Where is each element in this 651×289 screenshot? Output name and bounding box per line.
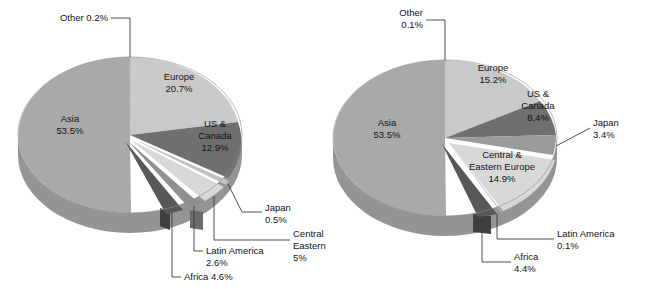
svg-text:20.7%: 20.7%: [166, 83, 193, 94]
svg-text:Eastern Europe: Eastern Europe: [469, 161, 535, 172]
svg-text:Canada: Canada: [198, 130, 232, 141]
right-callout-japan: Japan 3.4%: [556, 117, 619, 146]
svg-text:Europe: Europe: [478, 62, 509, 73]
right-pie-svg: Asia 53.5% Europe 15.2% US & Canada 8.4%…: [325, 0, 651, 289]
left-pie-chart-panel: Asia 53.5% Europe 20.7% US & Canada 12.9…: [0, 0, 326, 289]
svg-text:0.1%: 0.1%: [401, 19, 423, 30]
svg-text:2.6%: 2.6%: [206, 257, 228, 268]
svg-text:0.5%: 0.5%: [265, 214, 287, 225]
svg-text:4.4%: 4.4%: [514, 263, 536, 274]
svg-text:US &: US &: [527, 88, 550, 99]
svg-text:Other: Other: [399, 7, 423, 18]
svg-text:12.9%: 12.9%: [202, 142, 229, 153]
svg-text:Central &: Central &: [482, 149, 522, 160]
svg-text:53.5%: 53.5%: [57, 125, 84, 136]
svg-text:Latin America: Latin America: [557, 228, 615, 239]
svg-text:US &: US &: [204, 118, 227, 129]
svg-text:15.2%: 15.2%: [480, 74, 507, 85]
right-callout-other: Other 0.1%: [399, 7, 445, 60]
svg-text:14.9%: 14.9%: [489, 173, 516, 184]
svg-text:Africa 4.6%: Africa 4.6%: [184, 271, 233, 282]
svg-text:Asia: Asia: [378, 117, 397, 128]
right-callout-latin-america: Latin America 0.1%: [497, 214, 615, 251]
right-pie-slices: [333, 60, 556, 217]
svg-text:Eastern Europe: Eastern Europe: [293, 240, 326, 251]
svg-text:Central &: Central &: [293, 228, 326, 239]
right-pie-chart-panel: Asia 53.5% Europe 15.2% US & Canada 8.4%…: [325, 0, 651, 289]
svg-text:Japan: Japan: [265, 202, 291, 213]
svg-text:Japan: Japan: [593, 117, 619, 128]
right-label-europe: Europe 15.2%: [478, 62, 509, 85]
pie-chart-pair-figure: Asia 53.5% Europe 20.7% US & Canada 12.9…: [0, 0, 651, 289]
svg-text:8.4%: 8.4%: [527, 112, 549, 123]
left-callout-japan: Japan 0.5%: [228, 184, 291, 225]
svg-text:Europe: Europe: [164, 71, 195, 82]
left-label-europe: Europe 20.7%: [164, 71, 195, 94]
svg-text:53.5%: 53.5%: [374, 129, 401, 140]
svg-text:Canada: Canada: [521, 100, 555, 111]
svg-text:Latin America: Latin America: [206, 245, 264, 256]
svg-text:5%: 5%: [293, 252, 307, 263]
svg-text:0.1%: 0.1%: [557, 240, 579, 251]
svg-text:Asia: Asia: [61, 113, 80, 124]
left-callout-other: Other 0.2%: [60, 12, 130, 57]
svg-text:Africa: Africa: [514, 251, 539, 262]
svg-text:Other 0.2%: Other 0.2%: [60, 12, 109, 23]
svg-text:3.4%: 3.4%: [593, 129, 615, 140]
left-pie-svg: Asia 53.5% Europe 20.7% US & Canada 12.9…: [0, 0, 326, 289]
left-callout-latin-america: Latin America 2.6%: [194, 206, 264, 268]
